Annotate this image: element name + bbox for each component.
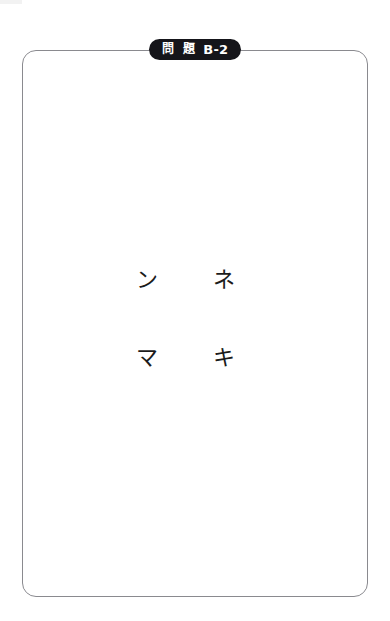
kana-cell: ン (125, 260, 169, 300)
badge-kanji-label: 問 題 (162, 43, 198, 55)
worksheet-page: 問 題 B-2 ン ネ マ キ (0, 0, 390, 621)
scan-artifact (0, 0, 22, 4)
kana-row: マ キ (22, 338, 368, 378)
kana-row: ン ネ (22, 260, 368, 300)
problem-number-badge[interactable]: 問 題 B-2 (149, 39, 242, 60)
kana-cell: ネ (202, 260, 246, 300)
kana-cell: キ (202, 338, 246, 378)
kana-grid: ン ネ マ キ (22, 255, 368, 380)
kana-cell: マ (125, 338, 169, 378)
badge-code-label: B-2 (203, 43, 228, 56)
